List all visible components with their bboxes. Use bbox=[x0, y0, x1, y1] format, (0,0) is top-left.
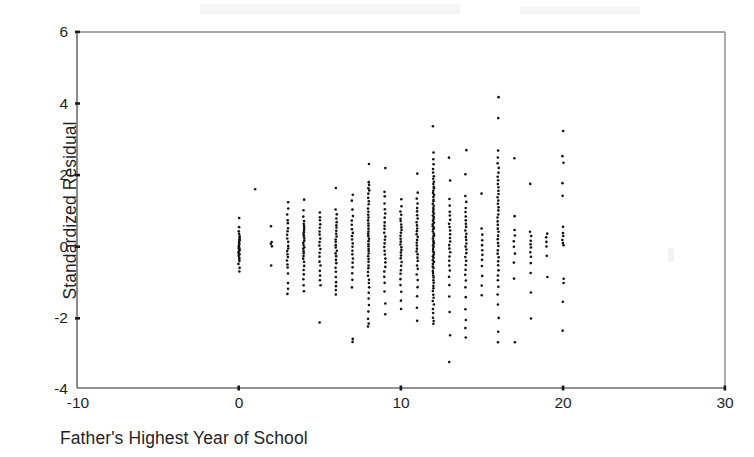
x-tick-label: 0 bbox=[235, 394, 244, 412]
x-tick-label: -10 bbox=[67, 394, 89, 412]
x-tick-label: 10 bbox=[392, 394, 409, 412]
y-axis-title: Standardized Residual bbox=[60, 81, 81, 341]
x-axis-title: Father's Highest Year of School bbox=[60, 428, 308, 449]
data-points-layer bbox=[237, 96, 565, 364]
scatter-plot-figure: 6 4 2 0 -2 -4 -10 0 10 20 30 Father's Hi… bbox=[0, 0, 754, 457]
y-tick-label: -4 bbox=[33, 380, 68, 398]
x-tick-label: 30 bbox=[716, 394, 733, 412]
plot-frame bbox=[77, 32, 725, 388]
y-tick-label: 6 bbox=[38, 23, 68, 41]
plot-canvas bbox=[0, 0, 754, 457]
x-tick-label: 20 bbox=[554, 394, 571, 412]
